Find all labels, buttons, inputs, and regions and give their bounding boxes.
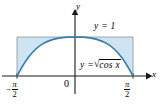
- plot-canvas: [0, 0, 161, 111]
- fraction-pi-over-2: π2: [12, 80, 18, 99]
- line-equation-label: y = 1: [94, 22, 116, 32]
- x-tick-label-left: −π2: [6, 79, 18, 99]
- graph-figure: y x 0 y = 1 y =√cos x −π2 π2: [0, 0, 161, 111]
- fraction-denominator: 2: [124, 90, 130, 99]
- fraction-pi-over-2: π2: [124, 80, 130, 99]
- origin-label: 0: [64, 79, 69, 89]
- fraction-denominator: 2: [12, 90, 18, 99]
- x-axis-label: x: [152, 70, 156, 79]
- sqrt-radicand: cos x: [99, 59, 121, 71]
- sqrt-expression: √cos x: [94, 59, 121, 71]
- curve-equation-lhs: y =: [80, 60, 94, 70]
- curve-equation-label: y =√cos x: [80, 59, 121, 71]
- x-tick-label-right: π2: [124, 79, 130, 99]
- y-axis-label: y: [76, 2, 80, 11]
